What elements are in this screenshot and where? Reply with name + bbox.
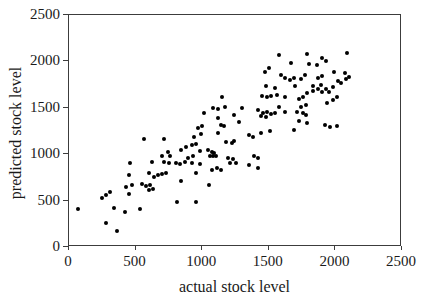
data-point [214, 154, 218, 158]
data-point [148, 183, 152, 187]
data-point [240, 106, 244, 110]
data-point [327, 90, 331, 94]
y-axis-tick [63, 153, 68, 154]
data-point [226, 156, 230, 160]
data-point [335, 124, 339, 128]
data-point [162, 137, 166, 141]
data-point [130, 183, 134, 187]
data-point [76, 207, 80, 211]
data-point [299, 105, 303, 109]
plot-area [68, 14, 401, 246]
data-point [160, 154, 164, 158]
data-point [283, 110, 287, 114]
data-point [232, 139, 236, 143]
data-point [104, 221, 108, 225]
data-point [305, 52, 309, 56]
x-axis-tick [135, 246, 136, 250]
data-point [292, 76, 296, 80]
data-point [277, 105, 281, 109]
data-point [268, 129, 272, 133]
data-point [232, 113, 236, 117]
y-axis-title: predicted stock level [7, 67, 25, 199]
data-point [200, 124, 204, 128]
data-point [315, 63, 319, 67]
data-point [283, 95, 287, 99]
data-point [297, 119, 301, 123]
y-axis-tick-label: 2500 [12, 7, 60, 22]
data-point [231, 157, 235, 161]
data-point [194, 200, 198, 204]
data-point [112, 206, 116, 210]
data-point [256, 156, 260, 160]
x-axis-tick-label: 500 [123, 254, 146, 269]
data-point [304, 103, 308, 107]
data-point [247, 163, 251, 167]
data-point [216, 107, 220, 111]
data-point [115, 229, 119, 233]
data-point [324, 59, 328, 63]
data-point [199, 132, 203, 136]
data-point [234, 161, 238, 165]
scatter-chart: predicted stock level actual stock level… [0, 0, 424, 303]
x-axis-tick [268, 246, 269, 250]
data-point [147, 171, 151, 175]
data-point [174, 161, 178, 165]
data-point [331, 98, 335, 102]
data-point [260, 94, 264, 98]
x-axis-tick [401, 246, 402, 250]
y-axis-tick-label: 1500 [12, 99, 60, 114]
data-point [275, 93, 279, 97]
data-point [194, 142, 198, 146]
data-point [168, 154, 172, 158]
y-axis-tick-label: 500 [12, 192, 60, 207]
data-point [202, 111, 206, 115]
data-point [331, 85, 335, 89]
data-point [224, 140, 228, 144]
data-point [267, 66, 271, 70]
data-point [323, 123, 327, 127]
data-point [299, 77, 303, 81]
data-point [303, 73, 307, 77]
data-point [343, 71, 347, 75]
data-point [151, 187, 155, 191]
data-point [345, 51, 349, 55]
data-point [128, 161, 132, 165]
data-point [124, 185, 128, 189]
data-point [273, 111, 277, 115]
data-point [150, 160, 154, 164]
data-point [264, 115, 268, 119]
data-point [339, 81, 343, 85]
data-point [347, 75, 351, 79]
data-point [259, 131, 263, 135]
data-point [194, 171, 198, 175]
data-point [216, 116, 220, 120]
data-point [305, 121, 309, 125]
data-point [186, 156, 190, 160]
data-point [320, 90, 324, 94]
data-point [222, 124, 226, 128]
data-point [311, 89, 315, 93]
data-point [198, 149, 202, 153]
data-point [210, 168, 214, 172]
data-point [256, 166, 260, 170]
data-point [305, 91, 309, 95]
data-point [206, 148, 210, 152]
data-point [289, 61, 293, 65]
data-point [216, 131, 220, 135]
x-axis-tick-label: 1000 [186, 254, 216, 269]
data-point [104, 193, 108, 197]
data-point [320, 74, 324, 78]
data-point [123, 210, 127, 214]
data-point [325, 101, 329, 105]
data-point [175, 200, 179, 204]
data-point [292, 128, 296, 132]
data-point [127, 173, 131, 177]
data-point [256, 108, 260, 112]
x-axis-title: actual stock level [68, 278, 401, 296]
data-point [301, 95, 305, 99]
x-axis-tick-label: 2500 [386, 254, 416, 269]
y-axis-tick [63, 60, 68, 61]
data-point [269, 94, 273, 98]
y-axis-tick [63, 246, 68, 247]
data-point [251, 135, 255, 139]
